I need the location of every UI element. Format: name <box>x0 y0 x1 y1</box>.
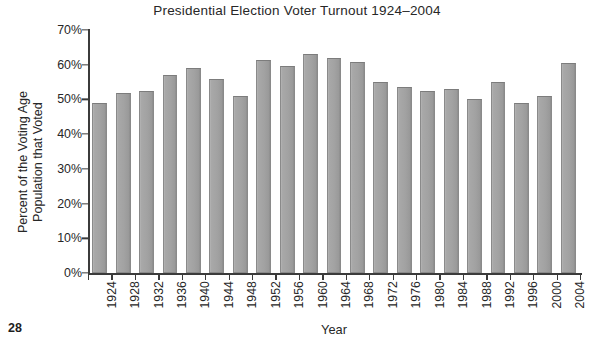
bar[interactable] <box>186 68 201 273</box>
x-tick-label: 1936 <box>175 281 189 309</box>
x-axis-tick-labels: 1924192819321936194019441948195219561960… <box>88 281 580 323</box>
chart-title: Presidential Election Voter Turnout 1924… <box>0 3 594 18</box>
x-tick-mark <box>182 274 183 280</box>
bar-slot <box>280 30 295 273</box>
x-tick-label: 1980 <box>433 281 447 309</box>
x-tick-label: 1940 <box>198 281 212 309</box>
bar[interactable] <box>467 99 482 273</box>
bar-slot <box>139 30 154 273</box>
y-tick-label: 0% <box>64 266 82 280</box>
y-axis-tick-labels: 0%10%20%30%40%50%60%70% <box>0 30 82 273</box>
x-tick-mark <box>346 274 347 280</box>
y-tick-label: 20% <box>57 197 82 211</box>
x-tick-mark <box>486 274 487 280</box>
bar-slot <box>209 30 224 273</box>
x-tick-label: 1956 <box>292 281 306 309</box>
bar-slot <box>467 30 482 273</box>
bar[interactable] <box>397 87 412 273</box>
y-tick-label: 60% <box>57 58 82 72</box>
bar[interactable] <box>491 82 506 273</box>
x-tick-mark <box>439 274 440 280</box>
bar-slot <box>373 30 388 273</box>
bar[interactable] <box>537 96 552 273</box>
bar-slot <box>116 30 131 273</box>
y-tick-label: 50% <box>57 92 82 106</box>
bar[interactable] <box>350 62 365 273</box>
bar-series <box>88 30 580 273</box>
x-tick-mark <box>533 274 534 280</box>
bar-slot <box>444 30 459 273</box>
x-tick-mark <box>580 274 581 280</box>
bar-slot <box>256 30 271 273</box>
x-tick-mark <box>275 274 276 280</box>
bar[interactable] <box>233 96 248 273</box>
bar-slot <box>233 30 248 273</box>
bar[interactable] <box>256 60 271 273</box>
x-tick-mark <box>88 274 89 280</box>
x-tick-label: 1952 <box>269 281 283 309</box>
x-tick-label: 1976 <box>409 281 423 309</box>
bar[interactable] <box>163 75 178 273</box>
bar-slot <box>163 30 178 273</box>
x-tick-label: 1924 <box>105 281 119 309</box>
bar[interactable] <box>444 89 459 273</box>
x-tick-mark <box>111 274 112 280</box>
x-tick-label: 2000 <box>550 281 564 309</box>
x-tick-mark <box>252 274 253 280</box>
y-tick-label: 40% <box>57 127 82 141</box>
x-tick-mark <box>158 274 159 280</box>
bar[interactable] <box>139 91 154 273</box>
x-tick-label: 1992 <box>503 281 517 309</box>
y-tick-label: 70% <box>57 23 82 37</box>
x-tick-mark <box>299 274 300 280</box>
x-tick-label: 2004 <box>573 281 587 309</box>
bar-slot <box>420 30 435 273</box>
x-tick-mark <box>322 274 323 280</box>
x-tick-label: 1960 <box>316 281 330 309</box>
bar[interactable] <box>280 66 295 273</box>
bar-slot <box>561 30 576 273</box>
x-tick-label: 1944 <box>222 281 236 309</box>
bar[interactable] <box>303 54 318 273</box>
bar[interactable] <box>92 103 107 273</box>
plot-area <box>88 30 580 273</box>
bar[interactable] <box>561 63 576 273</box>
chart-figure: Presidential Election Voter Turnout 1924… <box>0 0 594 342</box>
x-tick-mark <box>229 274 230 280</box>
bar-slot <box>327 30 342 273</box>
x-tick-label: 1996 <box>526 281 540 309</box>
bar[interactable] <box>327 58 342 273</box>
x-axis-title: Year <box>88 322 580 337</box>
x-tick-mark <box>463 274 464 280</box>
x-tick-label: 1964 <box>339 281 353 309</box>
x-tick-mark <box>393 274 394 280</box>
y-tick-label: 10% <box>57 231 82 245</box>
bar[interactable] <box>116 93 131 274</box>
x-tick-label: 1984 <box>456 281 470 309</box>
x-tick-label: 1972 <box>386 281 400 309</box>
bar-slot <box>92 30 107 273</box>
x-tick-label: 1988 <box>480 281 494 309</box>
bar-slot <box>186 30 201 273</box>
bar-slot <box>397 30 412 273</box>
bar-slot <box>350 30 365 273</box>
bar[interactable] <box>209 79 224 273</box>
bar[interactable] <box>514 103 529 273</box>
x-tick-mark <box>369 274 370 280</box>
x-tick-mark <box>135 274 136 280</box>
bar-slot <box>514 30 529 273</box>
x-tick-label: 1948 <box>245 281 259 309</box>
x-tick-label: 1932 <box>152 281 166 309</box>
x-tick-mark <box>416 274 417 280</box>
bar[interactable] <box>373 82 388 273</box>
y-tick-label: 30% <box>57 162 82 176</box>
x-tick-label: 1928 <box>128 281 142 309</box>
bar-slot <box>491 30 506 273</box>
x-tick-mark <box>557 274 558 280</box>
bar-slot <box>537 30 552 273</box>
x-tick-label: 1968 <box>362 281 376 309</box>
x-tick-mark <box>510 274 511 280</box>
x-tick-mark <box>205 274 206 280</box>
page-number: 28 <box>8 321 22 335</box>
bar[interactable] <box>420 91 435 273</box>
